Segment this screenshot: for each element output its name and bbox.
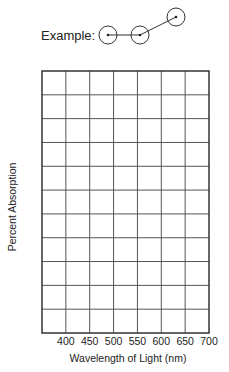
x-tick-label: 600 (153, 335, 171, 347)
x-tick-label: 500 (105, 335, 123, 347)
example-point-dot (107, 34, 110, 37)
x-tick-label: 400 (57, 335, 75, 347)
plot-frame (42, 71, 209, 333)
x-tick-label: 450 (81, 335, 99, 347)
x-tick-label: 700 (200, 335, 218, 347)
example-label: Example: (41, 28, 95, 43)
x-tick-label: 650 (176, 335, 194, 347)
x-tick-label: 550 (129, 335, 147, 347)
x-axis-ticks: 400450500550600650700 (57, 335, 218, 347)
y-axis-title: Percent Absorption (6, 162, 18, 251)
plot-grid (42, 71, 209, 333)
example-markers (99, 8, 185, 44)
absorption-chart: Example: 400450500550600650700 Wavelengt… (0, 0, 229, 372)
example-point-dot (175, 16, 178, 19)
x-axis-title: Wavelength of Light (nm) (70, 352, 187, 364)
example-point-dot (139, 34, 142, 37)
